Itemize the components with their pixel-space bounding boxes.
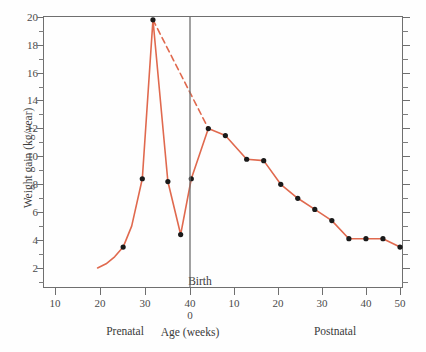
data-point-marker [244,157,249,162]
data-point-marker [380,236,385,241]
data-point-marker [140,176,145,181]
data-point-marker [261,158,266,163]
data-point-marker [223,133,228,138]
data-point-marker [295,196,300,201]
series-line-actual [98,20,400,268]
data-point-marker [312,207,317,212]
data-point-marker [165,179,170,184]
data-point-marker [346,236,351,241]
data-point-marker [121,244,126,249]
chart-page: Weight gain (kg/year) 2018161412108642 1… [0,0,426,352]
data-point-marker [329,218,334,223]
data-point-marker [206,126,211,131]
chart-data-layer [0,0,426,352]
data-point-marker [363,236,368,241]
data-point-marker [397,244,402,249]
data-point-marker [178,232,183,237]
data-point-marker [150,17,155,22]
data-point-marker [278,182,283,187]
